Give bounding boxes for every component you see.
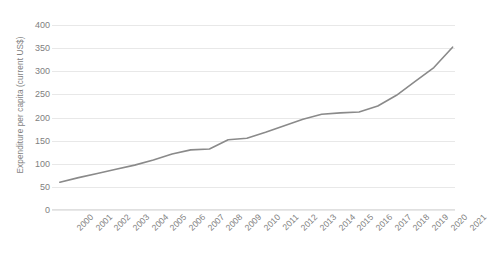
x-tick-label-text: 2011 (280, 212, 300, 232)
x-tick-label-text: 2021 (467, 212, 488, 233)
x-tick-label-2014: 2014 (336, 212, 357, 233)
x-tick-label-text: 2004 (149, 212, 170, 233)
y-tick-label-300: 300 (18, 66, 50, 76)
x-tick-label-2019: 2019 (430, 212, 451, 233)
x-tick-label-2011: 2011 (280, 212, 300, 232)
x-tick-label-text: 2005 (168, 212, 189, 233)
x-tick-label-text: 2016 (374, 212, 395, 233)
x-tick-label-2003: 2003 (131, 212, 152, 233)
x-tick-label-text: 2012 (299, 212, 320, 233)
x-tick-label-text: 2014 (336, 212, 357, 233)
x-tick-label-text: 2020 (448, 212, 469, 233)
y-tick-label-200: 200 (18, 113, 50, 123)
y-tick-label-350: 350 (18, 43, 50, 53)
x-tick-label-2012: 2012 (299, 212, 320, 233)
x-tick-label-2016: 2016 (374, 212, 395, 233)
x-tick-label-text: 2009 (243, 212, 264, 233)
plot-area (52, 25, 455, 210)
x-tick-label-2015: 2015 (355, 212, 376, 233)
x-tick-label-2010: 2010 (261, 212, 282, 233)
x-tick-label-text: 2010 (261, 212, 282, 233)
x-tick-label-text: 2007 (205, 212, 226, 233)
x-tick-label-text: 2003 (131, 212, 152, 233)
x-tick-label-2006: 2006 (187, 212, 208, 233)
x-tick-label-text: 2001 (93, 212, 114, 233)
x-tick-label-2005: 2005 (168, 212, 189, 233)
y-tick-label-400: 400 (18, 20, 50, 30)
x-tick-label-text: 2002 (112, 212, 133, 233)
x-tick-label-2002: 2002 (112, 212, 133, 233)
y-tick-label-50: 50 (18, 182, 50, 192)
x-tick-label-2017: 2017 (392, 212, 413, 233)
x-tick-label-text: 2015 (355, 212, 376, 233)
y-tick-label-150: 150 (18, 136, 50, 146)
x-tick-label-text: 2000 (74, 212, 95, 233)
x-tick-label-2000: 2000 (74, 212, 95, 233)
x-tick-label-text: 2019 (430, 212, 451, 233)
y-tick-label-250: 250 (18, 89, 50, 99)
x-tick-label-text: 2008 (224, 212, 245, 233)
x-tick-label-2009: 2009 (243, 212, 264, 233)
x-tick-label-text: 2018 (411, 212, 432, 233)
x-tick-label-2020: 2020 (448, 212, 469, 233)
x-tick-label-2004: 2004 (149, 212, 170, 233)
x-tick-label-2007: 2007 (205, 212, 226, 233)
x-axis-line (52, 209, 455, 210)
gridline-0 (52, 210, 455, 211)
x-tick-label-text: 2013 (318, 212, 339, 233)
x-tick-label-text: 2017 (392, 212, 413, 233)
x-tick-label-2018: 2018 (411, 212, 432, 233)
series-polyline (60, 47, 453, 182)
x-tick-label-2013: 2013 (318, 212, 339, 233)
y-tick-label-0: 0 (18, 205, 50, 215)
x-axis-tick-labels: 2000200120022003200420052006200720082009… (52, 212, 455, 257)
x-tick-label-2008: 2008 (224, 212, 245, 233)
y-axis-tick-labels: 050100150200250300350400 (18, 18, 50, 210)
x-tick-label-text: 2006 (187, 212, 208, 233)
x-tick-label-2001: 2001 (93, 212, 114, 233)
x-tick-label-2021: 2021 (467, 212, 488, 233)
y-tick-label-100: 100 (18, 159, 50, 169)
series-line-expenditure-per-capita (52, 25, 455, 210)
